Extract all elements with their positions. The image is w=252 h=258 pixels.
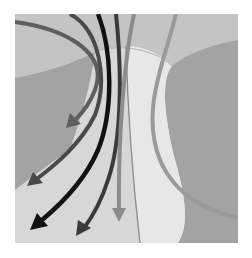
flow-diagram [0,0,252,258]
diagram-canvas [0,0,252,258]
